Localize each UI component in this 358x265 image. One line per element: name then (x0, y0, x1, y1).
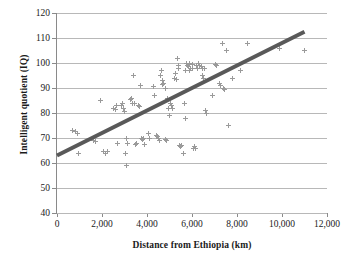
y-tick-label: 50 (20, 183, 50, 193)
iq-distance-scatter-chart: Intelligent quotient (IQ) 40506070809010… (0, 0, 358, 265)
gridline-y (57, 213, 327, 214)
x-axis-title: Distance from Ethiopia (km) (56, 240, 328, 250)
x-tick-mark (327, 213, 328, 217)
y-tick-label-wrap: 80 (18, 108, 50, 118)
y-axis-title: Intelligent quotient (IQ) (16, 0, 32, 212)
x-tick-label: 12,000 (304, 219, 350, 230)
y-tick-label: 100 (20, 58, 50, 68)
y-tick-label-wrap: 90 (18, 83, 50, 93)
y-tick-label-wrap: 50 (18, 183, 50, 193)
y-tick-label-wrap: 40 (18, 208, 50, 218)
y-tick-label: 80 (20, 108, 50, 118)
y-tick-label: 40 (20, 208, 50, 218)
y-tick-label-wrap: 60 (18, 158, 50, 168)
x-tick-label: 0 (34, 219, 80, 230)
y-tick-label: 70 (20, 133, 50, 143)
y-tick-label: 120 (20, 8, 50, 18)
y-tick-label-wrap: 110 (18, 33, 50, 43)
y-tick-label-wrap: 120 (18, 8, 50, 18)
y-tick-label: 110 (20, 33, 50, 43)
x-tick-label: 2,000 (79, 219, 125, 230)
y-tick-label: 90 (20, 83, 50, 93)
trendline (57, 13, 327, 213)
x-tick-label: 4,000 (124, 219, 170, 230)
x-tick-label: 10,000 (259, 219, 305, 230)
plot-area (57, 13, 327, 213)
y-tick-label-wrap: 100 (18, 58, 50, 68)
y-tick-label-wrap: 70 (18, 133, 50, 143)
y-tick-label: 60 (20, 158, 50, 168)
x-tick-label: 8,000 (214, 219, 260, 230)
x-tick-label: 6,000 (169, 219, 215, 230)
